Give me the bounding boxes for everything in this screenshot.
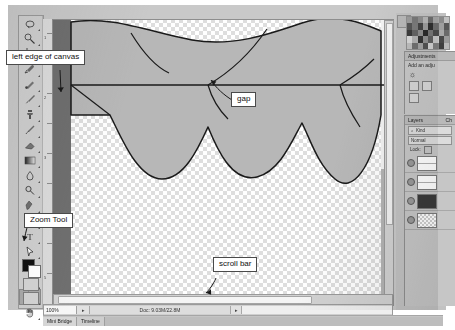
- layer-thumbnail[interactable]: [417, 175, 437, 190]
- vertical-scrollbar[interactable]: [384, 20, 394, 295]
- type-tool[interactable]: T: [19, 229, 41, 244]
- layers-tab-label[interactable]: Layers: [408, 117, 423, 123]
- lasso-tool[interactable]: [19, 16, 41, 31]
- table-row[interactable]: [405, 154, 455, 173]
- blend-mode-select[interactable]: Normal: [408, 136, 452, 145]
- zoom-level-field[interactable]: 100%: [44, 306, 77, 314]
- layer-filter-field[interactable]: ⌕ Kind: [408, 126, 452, 135]
- eye-icon[interactable]: [407, 178, 415, 186]
- eye-icon[interactable]: [407, 197, 415, 205]
- curves-icon[interactable]: [422, 81, 432, 91]
- callout-zoom-tool: Zoom Tool: [24, 213, 73, 228]
- tab-mini-bridge[interactable]: Mini Bridge: [43, 317, 77, 326]
- magic-wand-tool[interactable]: [19, 31, 41, 46]
- gradient-tool[interactable]: [19, 153, 41, 168]
- status-right-arrow-icon[interactable]: ▸: [230, 306, 241, 314]
- eye-icon[interactable]: [407, 159, 415, 167]
- adjustments-row-1[interactable]: ☼: [405, 69, 455, 80]
- eraser-tool[interactable]: [19, 138, 41, 153]
- tool-flyout-marker: [38, 318, 40, 320]
- lock-row: Lock:: [408, 146, 452, 153]
- layer-filter-text: Kind: [416, 128, 425, 133]
- photo-filter-icon[interactable]: [409, 93, 419, 103]
- lock-label: Lock:: [410, 147, 421, 152]
- bottom-tab-filler: [105, 317, 443, 326]
- clone-stamp-tool[interactable]: [19, 107, 41, 122]
- brightness-icon[interactable]: ☼: [409, 70, 416, 79]
- dodge-tool[interactable]: [19, 183, 41, 198]
- callout-left-edge-of-canvas: left edge of canvas: [6, 50, 85, 65]
- pen-tool[interactable]: [19, 198, 41, 213]
- spot-healing-tool[interactable]: [19, 77, 41, 92]
- adjustments-subtitle: Add an adju: [405, 61, 455, 69]
- brush-tool[interactable]: [19, 92, 41, 107]
- layer-thumbnail[interactable]: [417, 156, 437, 171]
- layers-panel-header: Layers Ch: [405, 116, 455, 125]
- callout-scroll-bar: scroll bar: [213, 257, 257, 272]
- adjustments-panel-title: Adjustments: [405, 52, 455, 61]
- hand-tool[interactable]: [19, 305, 41, 320]
- bottom-tab-bar: Mini Bridge Timeline: [43, 315, 443, 326]
- table-row[interactable]: [405, 192, 455, 211]
- levels-icon[interactable]: [409, 81, 419, 91]
- search-icon: ⌕: [411, 128, 414, 133]
- eye-icon[interactable]: [407, 216, 415, 224]
- callout-gap: gap: [231, 92, 256, 107]
- background-color-swatch[interactable]: [28, 265, 41, 278]
- layer-thumbnail[interactable]: [417, 194, 437, 209]
- adjustments-panel[interactable]: Adjustments Add an adju ☼: [404, 51, 455, 114]
- path-selection-tool[interactable]: [19, 244, 41, 259]
- table-row[interactable]: [405, 211, 455, 230]
- vertical-scrollbar-thumb[interactable]: [386, 23, 393, 225]
- lock-transparency-icon[interactable]: [424, 146, 432, 154]
- adjustments-row-2[interactable]: [405, 80, 455, 92]
- channels-tab-label[interactable]: Ch: [446, 117, 452, 123]
- quick-mask-button[interactable]: [23, 278, 39, 291]
- document-size-info: Doc: 9.03M/22.8M: [90, 306, 230, 314]
- blend-mode-value: Normal: [411, 138, 426, 143]
- tab-timeline[interactable]: Timeline: [77, 317, 105, 326]
- svg-text:T: T: [27, 232, 33, 242]
- horizontal-scrollbar-thumb[interactable]: [58, 296, 312, 304]
- swatches-panel[interactable]: [406, 16, 450, 50]
- history-brush-tool[interactable]: [19, 122, 41, 137]
- blur-tool[interactable]: [19, 168, 41, 183]
- screen-mode-button[interactable]: [23, 292, 39, 305]
- adjustments-row-3[interactable]: [405, 92, 455, 104]
- layers-panel[interactable]: Layers Ch ⌕ Kind Normal Lock:: [404, 115, 455, 306]
- status-bar-filler: [241, 306, 392, 314]
- status-left-arrow-icon[interactable]: ▸: [77, 306, 90, 314]
- table-row[interactable]: [405, 173, 455, 192]
- layer-thumbnail[interactable]: [417, 213, 437, 228]
